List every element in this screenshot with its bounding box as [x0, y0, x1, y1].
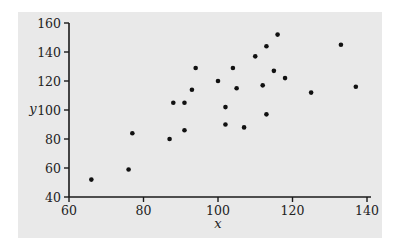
data-point: [193, 66, 198, 71]
data-points: [89, 32, 358, 182]
data-point: [275, 32, 280, 37]
data-point: [234, 86, 239, 91]
y-tick-label: 120: [37, 74, 61, 89]
data-point: [171, 100, 176, 105]
data-point: [126, 167, 131, 172]
data-point: [283, 76, 288, 81]
data-point: [354, 85, 359, 90]
data-point: [253, 54, 258, 59]
y-tick-label: 160: [37, 16, 61, 31]
x-tick-label: 140: [355, 203, 379, 218]
data-point: [264, 112, 269, 117]
data-point: [272, 69, 277, 74]
data-point: [182, 128, 187, 133]
data-point: [260, 83, 265, 88]
data-point: [223, 105, 228, 110]
y-tick-label: 80: [45, 132, 61, 147]
data-point: [182, 100, 187, 105]
data-point: [216, 79, 221, 84]
x-tick-label: 80: [136, 203, 152, 218]
data-point: [89, 177, 94, 182]
data-point: [264, 44, 269, 49]
data-point: [167, 137, 172, 142]
data-point: [242, 125, 247, 130]
data-point: [231, 66, 236, 71]
y-tick-label: 100: [37, 103, 61, 118]
y-axis-ticks: 406080100120140160: [37, 16, 69, 205]
data-point: [130, 131, 135, 136]
data-point: [223, 122, 228, 127]
x-axis-ticks: 6080100120140: [61, 197, 379, 218]
x-tick-label: 120: [281, 203, 305, 218]
x-tick-label: 60: [61, 203, 77, 218]
x-axis-label: x: [214, 216, 222, 231]
y-axis-label: y: [28, 101, 37, 116]
y-tick-label: 60: [45, 161, 61, 176]
axes: [69, 23, 371, 197]
y-tick-label: 40: [45, 190, 61, 205]
scatter-plot: 6080100120140 406080100120140160 x y: [0, 0, 400, 250]
data-point: [339, 42, 344, 47]
data-point: [190, 87, 195, 92]
y-tick-label: 140: [37, 45, 61, 60]
data-point: [309, 90, 314, 95]
